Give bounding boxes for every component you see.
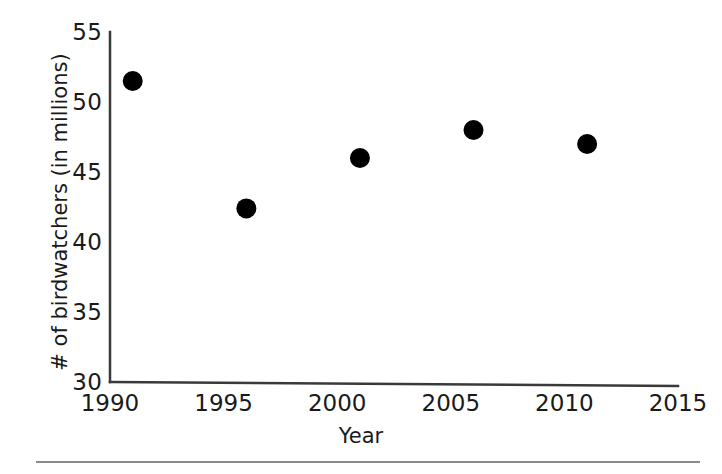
data-point-group <box>123 71 597 218</box>
y-axis-title: # of birdwatchers (in millions) <box>48 42 72 382</box>
x-axis-line <box>110 382 678 386</box>
chart-figure: 303540455055 199019952000200520102015 # … <box>0 0 722 474</box>
data-point <box>350 148 370 168</box>
data-point <box>464 120 484 140</box>
x-tick-label-text: 1990 <box>50 390 170 416</box>
data-point <box>123 71 143 91</box>
axis-lines <box>110 32 678 386</box>
x-tick-label: 2010 <box>504 390 624 418</box>
x-tick-label-text: 1995 <box>164 390 284 416</box>
x-tick-label: 1990 <box>50 390 170 418</box>
x-tick-label-text: 2010 <box>504 390 624 416</box>
x-axis-title: Year <box>0 424 722 448</box>
x-tick-label-text: 2015 <box>618 390 722 416</box>
x-tick-label: 2005 <box>391 390 511 418</box>
data-point <box>577 134 597 154</box>
y-tick-label-text: 55 <box>56 21 102 44</box>
x-tick-label-text: 2000 <box>277 390 397 416</box>
x-tick-label: 2000 <box>277 390 397 418</box>
footer-divider <box>36 461 700 463</box>
x-tick-label-text: 2005 <box>391 390 511 416</box>
x-tick-label: 2015 <box>618 390 722 418</box>
data-point <box>236 198 256 218</box>
x-tick-label: 1995 <box>164 390 284 418</box>
